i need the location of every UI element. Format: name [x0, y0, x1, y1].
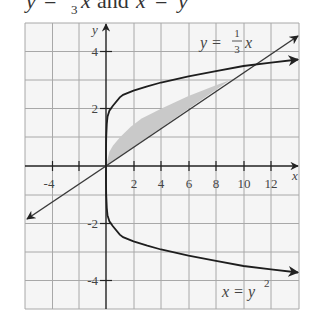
svg-text:and: and	[97, 0, 129, 13]
svg-text:3: 3	[71, 2, 78, 17]
svg-text:y: y	[24, 0, 36, 13]
svg-text:3: 3	[234, 43, 240, 55]
svg-text:-4: -4	[44, 176, 55, 191]
svg-text:-2: -2	[87, 216, 98, 231]
svg-text:x = y: x = y	[221, 283, 256, 301]
svg-text:1: 1	[234, 27, 240, 39]
svg-text:10: 10	[238, 176, 251, 191]
svg-text:=: =	[155, 0, 167, 13]
svg-text:4: 4	[158, 176, 165, 191]
svg-text:6: 6	[186, 176, 193, 191]
chart-figure: y = 3 x and x = y	[0, 0, 311, 315]
svg-text:2: 2	[264, 277, 270, 289]
svg-text:4: 4	[92, 44, 99, 59]
x-axis-label: x	[291, 168, 298, 183]
svg-text:=: =	[44, 0, 56, 13]
svg-text:8: 8	[213, 176, 220, 191]
svg-text:2: 2	[92, 101, 99, 116]
svg-text:y: y	[176, 0, 188, 13]
svg-text:12: 12	[265, 176, 278, 191]
svg-text:x: x	[244, 34, 252, 51]
svg-text:x: x	[135, 0, 146, 13]
svg-text:2: 2	[131, 176, 138, 191]
svg-text:x: x	[80, 0, 91, 13]
y-axis-label: y	[90, 22, 98, 37]
svg-text:-4: -4	[87, 273, 98, 288]
svg-text:y =: y =	[198, 34, 222, 52]
chart-title: y = 3 x and x = y	[24, 0, 188, 17]
